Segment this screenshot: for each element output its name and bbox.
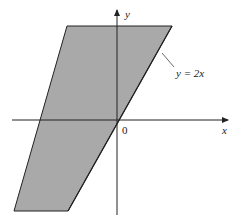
diagram-canvas: y x 0 y = 2x (0, 0, 240, 223)
label-leader-line (162, 53, 174, 67)
x-axis-label: x (221, 124, 227, 136)
boundary-equation-label: y = 2x (175, 67, 204, 79)
origin-label: 0 (122, 124, 128, 136)
y-axis-label: y (124, 8, 130, 20)
shaded-region (14, 26, 172, 211)
